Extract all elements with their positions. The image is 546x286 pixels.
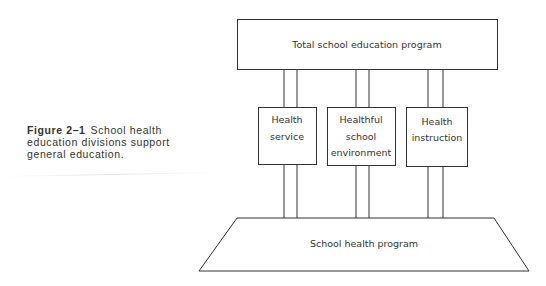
svg-text:Health: Health <box>271 114 302 125</box>
svg-text:Health: Health <box>421 116 452 127</box>
pillar-health-instruction-upper <box>428 70 443 107</box>
diagram: Total school education program Health se… <box>0 0 546 286</box>
svg-text:Healthful: Healthful <box>339 114 382 125</box>
base-label: School health program <box>310 238 418 249</box>
svg-text:service: service <box>270 131 304 142</box>
pillar-health-instruction-lower <box>428 166 443 218</box>
top-box-label: Total school education program <box>291 39 441 50</box>
pillar-healthful-environment-lower <box>356 165 369 218</box>
svg-text:instruction: instruction <box>412 132 463 143</box>
svg-text:school: school <box>346 131 376 142</box>
pillar-healthful-environment-upper <box>356 70 369 107</box>
svg-text:environment: environment <box>331 147 392 158</box>
pillar-health-service-upper <box>284 70 297 107</box>
pillar-health-service-lower <box>284 164 297 218</box>
